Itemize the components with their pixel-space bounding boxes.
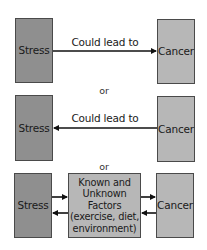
arrows-layer	[0, 0, 207, 250]
